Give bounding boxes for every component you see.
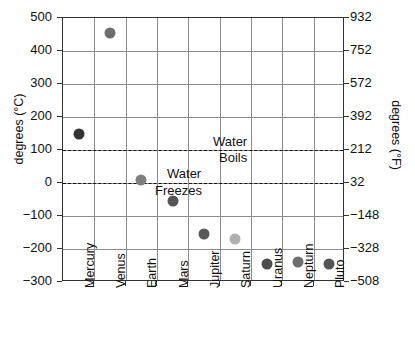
- gridline-vertical: [126, 18, 127, 280]
- data-point-mars: [167, 196, 178, 207]
- y-tick-right: [344, 248, 349, 249]
- data-point-earth: [136, 174, 147, 185]
- data-point-venus: [105, 27, 116, 38]
- y-tick-label-right: 392: [350, 108, 372, 123]
- y-tick-left: [57, 215, 62, 216]
- y-tick-label-right: −508: [350, 273, 379, 288]
- y-tick-label-left: 400: [30, 42, 52, 57]
- gridline-vertical: [251, 18, 252, 280]
- y-axis-left-title: degrees (°C): [12, 74, 26, 184]
- gridline-horizontal: [63, 51, 343, 52]
- y-tick-label-right: 752: [350, 42, 372, 57]
- y-tick-right: [344, 182, 349, 183]
- gridline-vertical: [314, 18, 315, 280]
- y-tick-label-right: 32: [350, 174, 364, 189]
- gridline-horizontal: [63, 84, 343, 85]
- planet-temperature-chart: degrees (°C) degrees (°F) WaterBoilsWate…: [0, 0, 415, 350]
- gridline-horizontal: [63, 216, 343, 217]
- data-point-mercury: [73, 128, 84, 139]
- gridline-horizontal: [63, 249, 343, 250]
- gridline-vertical: [282, 18, 283, 280]
- y-tick-left: [57, 83, 62, 84]
- x-tick-label-venus: Venus: [114, 253, 128, 288]
- y-tick-label-right: 932: [350, 9, 372, 24]
- y-tick-label-right: 572: [350, 75, 372, 90]
- data-point-saturn: [230, 234, 241, 245]
- gridline-vertical: [157, 18, 158, 280]
- y-tick-label-left: 200: [30, 108, 52, 123]
- y-tick-right: [344, 83, 349, 84]
- annotation-water: Water: [213, 134, 247, 149]
- y-tick-left: [57, 116, 62, 117]
- annotation-boils: Boils: [219, 150, 247, 165]
- gridline-vertical: [94, 18, 95, 280]
- y-tick-left: [57, 248, 62, 249]
- x-tick-label-pluto: Pluto: [333, 260, 347, 289]
- y-tick-left: [57, 17, 62, 18]
- gridline-vertical: [188, 18, 189, 280]
- y-tick-label-left: −300: [23, 273, 52, 288]
- y-tick-label-right: 212: [350, 141, 372, 156]
- y-tick-label-left: 300: [30, 75, 52, 90]
- gridline-horizontal: [63, 117, 343, 118]
- annotation-water2: Water: [167, 166, 201, 181]
- y-tick-label-right: −148: [350, 207, 379, 222]
- x-tick-label-earth: Earth: [145, 258, 159, 288]
- y-tick-right: [344, 215, 349, 216]
- y-tick-left: [57, 182, 62, 183]
- y-tick-right: [344, 50, 349, 51]
- x-tick-label-saturn: Saturn: [239, 251, 253, 288]
- reference-line-water-freezes: [63, 183, 343, 184]
- annotation-freezes: Freezes: [155, 183, 202, 198]
- x-tick-label-uranus: Uranus: [271, 248, 285, 288]
- data-point-jupiter: [199, 229, 210, 240]
- y-tick-label-left: −200: [23, 240, 52, 255]
- y-tick-left: [57, 281, 62, 282]
- y-tick-label-left: 100: [30, 141, 52, 156]
- x-tick-label-jupiter: Jupiter: [208, 250, 222, 288]
- x-tick-label-mercury: Mercury: [83, 243, 97, 288]
- y-tick-label-right: −328: [350, 240, 379, 255]
- plot-area: WaterBoilsWaterFreezes: [62, 17, 344, 281]
- y-tick-right: [344, 17, 349, 18]
- y-tick-right: [344, 149, 349, 150]
- y-tick-label-left: 0: [45, 174, 52, 189]
- reference-line-water-boils: [63, 150, 343, 151]
- y-tick-left: [57, 50, 62, 51]
- y-axis-right-title: degrees (°F): [389, 80, 403, 190]
- x-tick-label-mars: Mars: [177, 260, 191, 288]
- y-tick-label-left: 500: [30, 9, 52, 24]
- x-tick-label-nepturn: Nepturn: [302, 244, 316, 288]
- y-tick-label-left: −100: [23, 207, 52, 222]
- y-tick-left: [57, 149, 62, 150]
- y-tick-right: [344, 116, 349, 117]
- gridline-vertical: [220, 18, 221, 280]
